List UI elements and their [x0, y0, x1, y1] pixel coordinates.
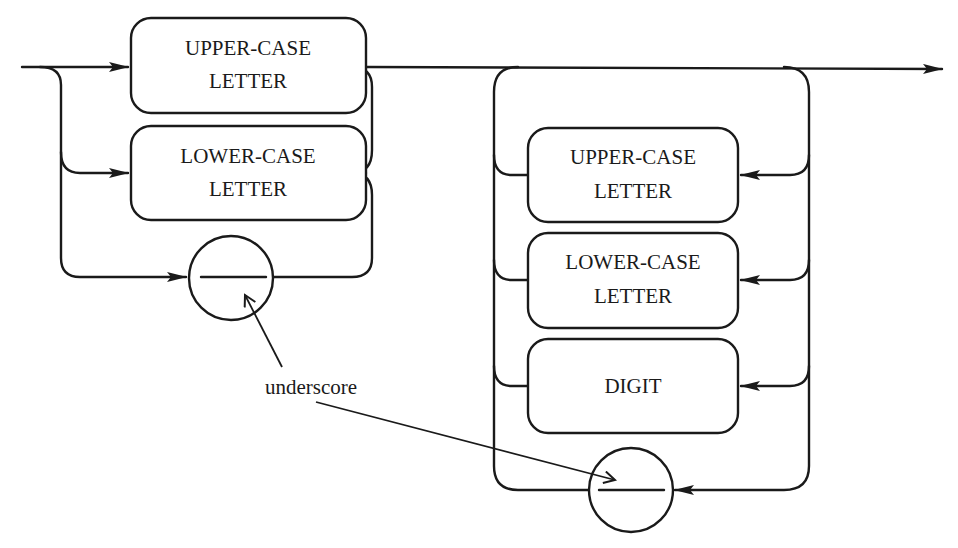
- box-label-line2: LETTER: [594, 179, 672, 203]
- right-box-lower-case-letter: LOWER-CASE LETTER: [528, 233, 738, 328]
- box-label-line1: UPPER-CASE: [570, 145, 696, 169]
- box-label-line2: LETTER: [209, 69, 287, 93]
- left-box-upper-case-letter: UPPER-CASE LETTER: [131, 18, 366, 113]
- right-loop-taps: [741, 155, 809, 386]
- box-label-line1: DIGIT: [604, 374, 661, 398]
- right-loop-returns: [494, 155, 528, 386]
- left-underscore-circle: [189, 236, 273, 320]
- right-underscore-circle: [589, 448, 673, 532]
- right-box-upper-case-letter: UPPER-CASE LETTER: [528, 128, 738, 222]
- annotation-label: underscore: [265, 375, 357, 399]
- box-label-line1: UPPER-CASE: [185, 36, 311, 60]
- left-box-lower-case-letter: LOWER-CASE LETTER: [131, 126, 366, 220]
- box-label-line1: LOWER-CASE: [565, 250, 700, 274]
- box-label-line2: LETTER: [594, 284, 672, 308]
- right-box-digit: DIGIT: [528, 339, 738, 433]
- box-label-line1: LOWER-CASE: [180, 144, 315, 168]
- syntax-diagram: UPPER-CASE LETTER LOWER-CASE LETTER UPPE…: [0, 0, 958, 548]
- box-label-line2: LETTER: [209, 177, 287, 201]
